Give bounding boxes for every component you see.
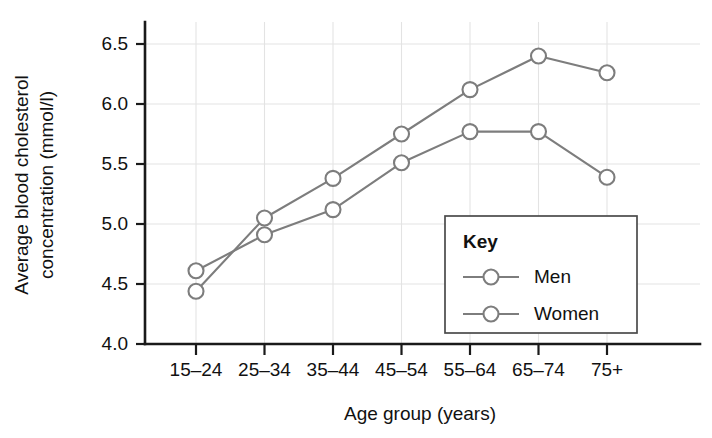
legend-title: Key (463, 231, 498, 252)
data-point-women (394, 155, 409, 170)
y-tick-label: 5.5 (102, 153, 128, 174)
x-tick-label: 25–34 (238, 359, 291, 380)
legend-swatch-marker (484, 270, 499, 285)
y-axis-ticks (136, 44, 145, 344)
x-axis-title: Age group (years) (344, 403, 496, 424)
x-tick-label: 35–44 (307, 359, 360, 380)
legend: Key MenWomen (445, 216, 637, 333)
data-point-women (257, 227, 272, 242)
legend-swatch-marker (484, 307, 499, 322)
x-axis-ticks (196, 344, 607, 355)
y-axis-title: Average blood cholesterol concentration … (11, 75, 57, 294)
y-tick-label: 4.0 (102, 333, 128, 354)
legend-label-women: Women (534, 303, 599, 324)
y-axis-tick-labels: 4.04.55.05.56.06.5 (102, 33, 128, 354)
y-tick-label: 6.5 (102, 33, 128, 54)
x-tick-label: 75+ (591, 359, 623, 380)
data-point-men (463, 82, 478, 97)
x-tick-label: 45–54 (375, 359, 428, 380)
x-tick-label: 15–24 (170, 359, 223, 380)
y-tick-label: 4.5 (102, 273, 128, 294)
data-point-men (326, 171, 341, 186)
y-tick-label: 5.0 (102, 213, 128, 234)
x-tick-label: 55–64 (444, 359, 497, 380)
data-point-women (600, 170, 615, 185)
x-tick-label: 65–74 (512, 359, 565, 380)
y-axis-title-line2: concentration (mmol/l) (36, 91, 57, 279)
y-tick-label: 6.0 (102, 93, 128, 114)
data-point-men (189, 284, 204, 299)
data-point-women (189, 263, 204, 278)
data-point-men (600, 65, 615, 80)
x-axis-tick-labels: 15–2425–3435–4445–5455–6465–7475+ (170, 359, 624, 380)
data-point-women (326, 202, 341, 217)
y-axis-title-line1: Average blood cholesterol (11, 75, 32, 294)
data-point-women (531, 124, 546, 139)
data-point-men (531, 49, 546, 64)
data-point-women (463, 124, 478, 139)
legend-label-men: Men (534, 266, 571, 287)
line-chart: 4.04.55.05.56.06.5 15–2425–3435–4445–545… (0, 0, 712, 438)
chart-container: 4.04.55.05.56.06.5 15–2425–3435–4445–545… (0, 0, 712, 438)
data-point-men (257, 211, 272, 226)
data-point-men (394, 127, 409, 142)
